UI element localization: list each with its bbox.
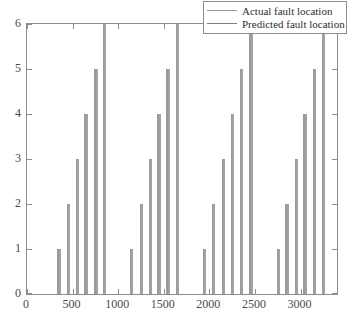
x-tick-mark-top (164, 24, 165, 29)
y-tick-mark (27, 159, 32, 160)
x-tick-mark (255, 289, 256, 294)
bar (278, 249, 280, 294)
y-axis-tick-labels: 0123456 (0, 23, 21, 295)
bar (204, 249, 206, 294)
bars-layer (27, 24, 337, 294)
y-tick-label: 1 (15, 242, 21, 254)
y-tick-mark-right (332, 114, 337, 115)
bar (251, 24, 253, 294)
x-tick-mark (209, 289, 210, 294)
y-tick-mark-right (332, 204, 337, 205)
bar (86, 114, 88, 294)
y-tick-mark (27, 114, 32, 115)
bar (59, 249, 61, 294)
y-tick-mark (27, 204, 32, 205)
bar (77, 159, 79, 294)
y-tick-label: 0 (15, 287, 21, 299)
x-tick-label: 2500 (242, 298, 266, 311)
bar (232, 114, 234, 294)
x-tick-label: 1500 (151, 298, 175, 311)
bar (314, 69, 316, 294)
bar (159, 114, 161, 294)
bar (104, 24, 106, 294)
bar (96, 69, 98, 294)
fault-location-chart-figure: 0123456 050010001500200025003000 Actual … (0, 0, 349, 322)
bar (141, 204, 143, 294)
legend-label-predicted: Predicted fault location (242, 18, 345, 30)
legend-line-actual-icon (207, 10, 237, 11)
bar (296, 159, 298, 294)
y-tick-label: 4 (15, 107, 21, 119)
y-tick-label: 2 (15, 197, 21, 209)
bar (305, 114, 307, 294)
bar (177, 24, 179, 294)
legend-item-predicted: Predicted fault location (207, 17, 343, 30)
x-tick-label: 1000 (105, 298, 129, 311)
y-tick-label: 6 (15, 17, 21, 29)
x-tick-label: 500 (63, 298, 81, 311)
x-tick-mark-top (73, 24, 74, 29)
x-tick-mark (118, 289, 119, 294)
x-tick-label: 2000 (196, 298, 220, 311)
x-tick-label: 0 (23, 298, 29, 311)
bar (168, 69, 170, 294)
bar (131, 249, 133, 294)
x-tick-mark (27, 289, 28, 294)
x-axis-tick-labels: 050010001500200025003000 (26, 298, 338, 314)
legend-item-actual: Actual fault location (207, 4, 343, 17)
x-tick-mark-top (27, 24, 28, 29)
y-tick-label: 5 (15, 62, 21, 74)
bar (68, 204, 70, 294)
y-tick-mark-right (332, 69, 337, 70)
bar (241, 69, 243, 294)
y-tick-mark-right (332, 249, 337, 250)
x-tick-mark (164, 289, 165, 294)
y-tick-mark-right (332, 293, 337, 294)
y-tick-label: 3 (15, 152, 21, 164)
bar (150, 159, 152, 294)
x-tick-mark (301, 289, 302, 294)
y-tick-mark-right (332, 159, 337, 160)
legend-line-predicted-icon (207, 23, 237, 24)
x-tick-mark (73, 289, 74, 294)
bar (213, 204, 215, 294)
bar (287, 204, 289, 294)
x-tick-label: 3000 (288, 298, 312, 311)
x-tick-mark-top (118, 24, 119, 29)
bar (223, 159, 225, 294)
plot-area (26, 23, 338, 295)
y-tick-mark (27, 69, 32, 70)
bar (323, 24, 325, 294)
chart-legend: Actual fault location Predicted fault lo… (203, 1, 347, 34)
legend-label-actual: Actual fault location (242, 5, 332, 17)
y-tick-mark (27, 249, 32, 250)
